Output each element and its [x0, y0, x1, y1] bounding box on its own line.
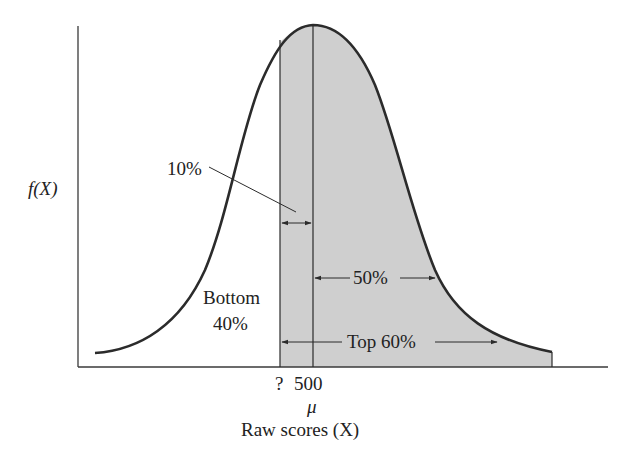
fifty-percent-label: 50%: [353, 267, 388, 288]
ten-percent-label: 10%: [167, 158, 202, 179]
x-axis-label: Raw scores (X): [241, 419, 359, 441]
mean-symbol: μ: [306, 396, 317, 417]
normal-curve-diagram: f(X) 10% 50% Bottom 40% Top 60% ? 500 μ …: [0, 0, 636, 470]
y-axis-label: f(X): [28, 178, 58, 200]
top-sixty-label: Top 60%: [347, 331, 416, 352]
bottom-label-line1: Bottom: [203, 287, 260, 308]
bottom-label-line2: 40%: [213, 313, 248, 334]
cutoff-tick-label: ?: [275, 373, 283, 394]
shaded-top-region: [280, 25, 552, 367]
mean-tick-label: 500: [294, 373, 323, 394]
